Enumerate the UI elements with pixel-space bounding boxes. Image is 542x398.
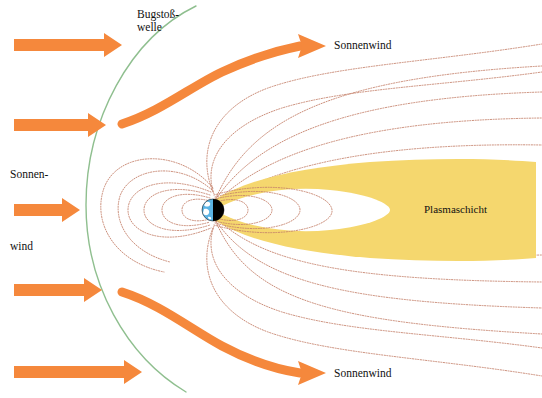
solar-wind-top-label: Sonnenwind	[334, 39, 392, 51]
plasma-sheet-shape	[214, 159, 536, 261]
deflected-arrow-upper-head	[298, 34, 326, 58]
inflow-arrow-4	[14, 278, 102, 302]
inflow-arrow-3	[14, 198, 80, 222]
earth	[202, 199, 224, 221]
bow-shock-curve	[86, 6, 196, 392]
diagram-canvas: Bugstoß- welle Sonnen- wind Sonnenwind S…	[0, 0, 542, 398]
solar-wind-left-label-line2: wind	[10, 240, 33, 252]
inflow-arrow-5	[14, 360, 142, 384]
deflected-arrow-upper-band	[122, 46, 300, 124]
plasma-sheet-label: Plasmaschicht	[424, 203, 487, 215]
bow-shock-label-line2: welle	[137, 21, 162, 33]
deflected-arrow-lower-head	[298, 361, 326, 385]
inflow-arrow-1	[14, 33, 122, 57]
solar-wind-left-label-line1: Sonnen-	[10, 168, 49, 180]
inflow-arrow-2	[14, 113, 106, 137]
deflected-arrow-lower-band	[122, 292, 300, 373]
solar-wind-bottom-label: Sonnenwind	[334, 367, 392, 379]
magnetosphere-diagram: Bugstoß- welle Sonnen- wind Sonnenwind S…	[0, 0, 542, 398]
bow-shock-label-line1: Bugstoß-	[137, 8, 179, 21]
